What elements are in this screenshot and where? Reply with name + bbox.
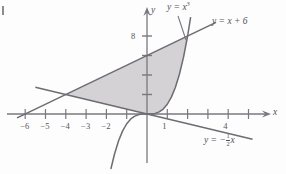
x-tick-label: 1 <box>162 122 166 131</box>
axis-label-y: y <box>151 6 155 16</box>
shaded-region <box>66 36 188 114</box>
x-tick-label: −6 <box>20 122 29 131</box>
cubic-label-leader-line <box>178 16 186 40</box>
y-tick-label: 8 <box>131 32 135 41</box>
label-line-sum-equation: y = x + 6 <box>212 17 248 27</box>
axis-label-x: x <box>273 108 277 118</box>
x-tick-label: −2 <box>101 122 110 131</box>
x-tick-label: 4 <box>223 122 227 131</box>
x-tick-label: −5 <box>41 122 50 131</box>
x-tick-label: −3 <box>81 122 90 131</box>
label-cubic-equation: y = x3 <box>167 3 190 13</box>
x-tick-label: −4 <box>61 122 70 131</box>
math-figure: y = x3 y = x + 6 y = −12x x y −6−5−4−3−2… <box>0 0 286 174</box>
label-line-half-equation: y = −12x <box>204 133 235 147</box>
